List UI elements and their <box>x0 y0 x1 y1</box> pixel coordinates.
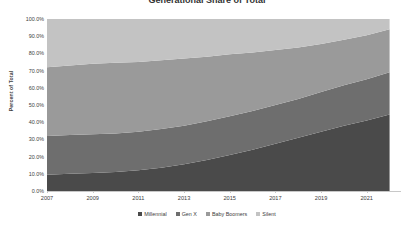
x-axis-tick-mark <box>321 191 322 193</box>
legend-item-millennial[interactable]: Millennial <box>138 211 166 217</box>
x-axis-tick-mark <box>93 191 94 193</box>
chart-title: Generational Share of Total <box>0 0 414 5</box>
x-axis-tick-labels: 20072009201120132015201720192021 <box>47 193 401 205</box>
x-axis-tick-label: 2017 <box>269 194 281 202</box>
y-axis-tick-label: 40.0% <box>10 119 44 125</box>
legend-label: Gen X <box>182 211 197 217</box>
legend-swatch-icon <box>206 212 210 216</box>
x-axis-tick-mark <box>230 191 231 193</box>
x-axis-tick-mark <box>275 191 276 193</box>
x-axis-tick-label: 2007 <box>41 194 53 202</box>
x-axis-tick-label: 2019 <box>315 194 327 202</box>
x-axis-tick-mark <box>138 191 139 193</box>
y-axis-tick-label: 70.0% <box>10 68 44 74</box>
x-axis-tick-label: 2013 <box>178 194 190 202</box>
y-axis-tick-label: 100.0% <box>10 16 44 22</box>
legend-item-baby-boomers[interactable]: Baby Boomers <box>206 211 247 217</box>
plot-area <box>47 19 401 191</box>
y-axis-tick-label: 10.0% <box>10 171 44 177</box>
legend-item-silent[interactable]: Silent <box>256 211 276 217</box>
legend-swatch-icon <box>138 212 142 216</box>
x-axis-tick-label: 2015 <box>223 194 235 202</box>
legend-label: Millennial <box>144 211 166 217</box>
x-axis-tick-mark <box>47 191 48 193</box>
legend-swatch-icon <box>176 212 180 216</box>
stacked-area-chart: Generational Share of Total Percent of T… <box>0 0 414 230</box>
chart-legend: MillennialGen XBaby BoomersSilent <box>0 208 414 220</box>
y-axis-tick-label: 90.0% <box>10 33 44 39</box>
x-axis-tick-mark <box>184 191 185 193</box>
x-axis-tick-label: 2021 <box>361 194 373 202</box>
x-axis-tick-label: 2009 <box>86 194 98 202</box>
y-axis-tick-label: 80.0% <box>10 50 44 56</box>
y-axis-tick-labels: 100.0%90.0%80.0%70.0%60.0%50.0%40.0%30.0… <box>10 19 44 191</box>
y-axis-tick-label: 0.0% <box>10 188 44 194</box>
y-axis-tick-label: 20.0% <box>10 154 44 160</box>
y-axis-tick-label: 60.0% <box>10 85 44 91</box>
area-series-group <box>47 19 401 191</box>
legend-label: Baby Boomers <box>212 211 247 217</box>
y-axis-tick-label: 30.0% <box>10 136 44 142</box>
x-axis-tick-label: 2011 <box>132 194 144 202</box>
x-axis-tick-mark <box>367 191 368 193</box>
legend-swatch-icon <box>256 212 260 216</box>
y-axis-tick-label: 50.0% <box>10 102 44 108</box>
legend-label: Silent <box>262 211 276 217</box>
legend-item-gen-x[interactable]: Gen X <box>176 211 197 217</box>
x-axis-line <box>47 191 401 192</box>
